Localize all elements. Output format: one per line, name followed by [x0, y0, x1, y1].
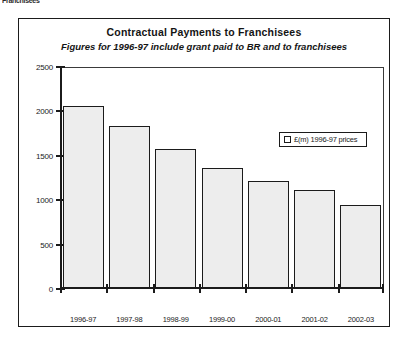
chart-frame: Contractual Payments to Franchisees Figu… [18, 18, 390, 327]
bar [202, 168, 243, 288]
bar [248, 181, 289, 288]
legend-swatch-icon [284, 136, 291, 143]
x-axis-labels: 1996-971997-981998-991999-002000-012001-… [60, 289, 384, 309]
bar [63, 106, 104, 288]
y-axis-tick-label: 1000 [36, 196, 53, 205]
x-axis-tick-label: 1998-99 [163, 315, 189, 324]
y-axis-tick-label: 1500 [36, 151, 53, 160]
chart-subtitle: Figures for 1996-97 include grant paid t… [19, 41, 389, 52]
bar [155, 149, 196, 288]
x-axis-tick-label: 1996-97 [70, 315, 96, 324]
y-axis-tick-label: 2500 [36, 63, 53, 72]
y-axis-tick-label: 2000 [36, 107, 53, 116]
plot-top-border [60, 67, 384, 68]
x-axis-tick-label: 1997-98 [116, 315, 142, 324]
y-axis-tick [56, 66, 65, 68]
plot-area: 05001000150020002500 [60, 67, 384, 289]
chart-title: Contractual Payments to Franchisees [19, 26, 389, 38]
legend-label: £(m) 1996-97 prices [294, 135, 357, 144]
x-axis-tick-label: 1999-00 [209, 315, 235, 324]
bar [340, 205, 381, 288]
scan-artifact-text: Franchisees [2, 0, 40, 4]
x-axis-tick-label: 2001-02 [302, 315, 328, 324]
y-axis-tick-label: 0 [49, 285, 53, 294]
x-axis-tick-label: 2002-03 [348, 315, 374, 324]
y-axis-tick-label: 500 [40, 240, 53, 249]
plot-right-border [383, 67, 384, 289]
chart-legend: £(m) 1996-97 prices [279, 132, 367, 147]
x-axis-tick-label: 2000-01 [255, 315, 281, 324]
bar [294, 190, 335, 288]
bar [109, 126, 150, 289]
